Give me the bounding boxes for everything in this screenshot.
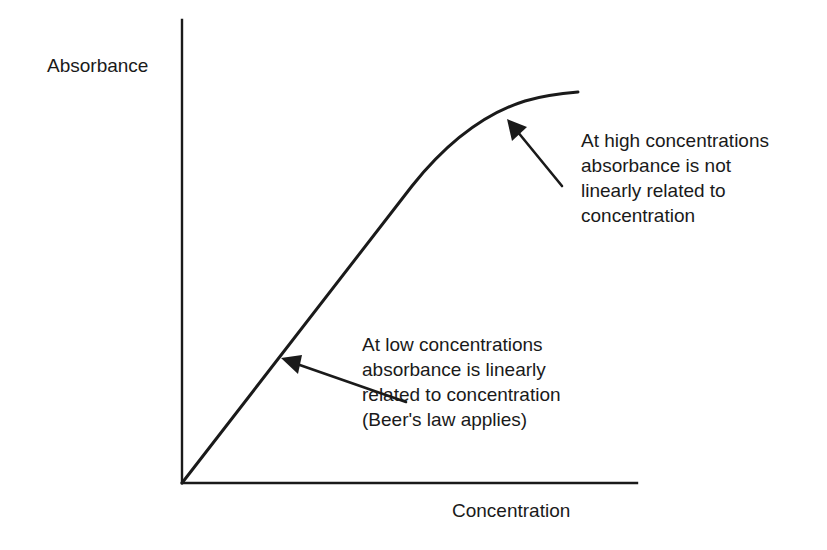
annotation-high-line-1: At high concentrations: [581, 128, 769, 153]
high-concentration-arrow: [507, 119, 562, 186]
plot-area: [0, 0, 827, 550]
annotation-low-concentration: At low concentrations absorbance is line…: [362, 332, 561, 432]
y-axis-label: Absorbance: [47, 55, 148, 77]
annotation-high-line-4: concentration: [581, 203, 769, 228]
chart-figure: Absorbance Concentration At high concent…: [0, 0, 827, 550]
annotation-high-line-2: absorbance is not: [581, 153, 769, 178]
annotation-low-line-4: (Beer's law applies): [362, 407, 561, 432]
annotation-low-line-2: absorbance is linearly: [362, 357, 561, 382]
annotation-low-line-1: At low concentrations: [362, 332, 561, 357]
annotation-high-concentration: At high concentrations absorbance is not…: [581, 128, 769, 228]
annotation-high-line-3: linearly related to: [581, 178, 769, 203]
annotation-low-line-3: related to concentration: [362, 382, 561, 407]
x-axis-label: Concentration: [452, 500, 570, 522]
